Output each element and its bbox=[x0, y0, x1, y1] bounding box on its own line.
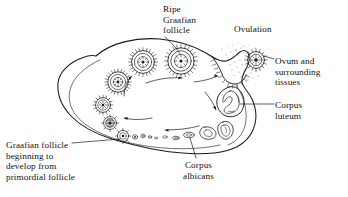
label-ovum-and-surrounding-tissues: Ovum and surrounding tissues bbox=[275, 56, 321, 88]
corpus-luteum bbox=[217, 87, 244, 117]
corpus-albicans-large bbox=[218, 121, 233, 139]
ripe-graafian-follicle bbox=[165, 45, 198, 78]
corpus-albicans-small bbox=[154, 132, 194, 140]
label-ovulation: Ovulation bbox=[234, 24, 272, 35]
early-follicle-dark bbox=[101, 114, 118, 131]
leader-ovum-surrounding bbox=[264, 56, 274, 59]
label-corpus-albicans: Corpus albicans bbox=[183, 160, 214, 181]
arrow-6 bbox=[124, 117, 152, 120]
ovary-cycle-figure: Ripe Graafian follicle Ovulation Ovum an… bbox=[0, 0, 348, 197]
arrow-4 bbox=[205, 92, 216, 110]
label-graafian-follicle-beginning: Graafian follicle beginning to develop f… bbox=[6, 140, 75, 182]
label-ripe-graafian-follicle: Ripe Graafian follicle bbox=[163, 4, 196, 36]
developing-follicle-stage-4 bbox=[129, 48, 158, 77]
primordial-follicle bbox=[115, 128, 130, 143]
leader-graafian-beginning bbox=[72, 139, 120, 143]
arrow-3 bbox=[194, 74, 218, 82]
tiny-primordial-follicles bbox=[132, 134, 151, 139]
arrow-2 bbox=[146, 76, 182, 83]
cycle-arrows bbox=[124, 74, 218, 132]
label-corpus-luteum: Corpus luteum bbox=[275, 100, 302, 121]
corpus-albicans-medium bbox=[200, 127, 216, 139]
arrow-5 bbox=[165, 126, 199, 132]
developing-follicle-stage-2 bbox=[93, 95, 113, 115]
released-ovum bbox=[245, 49, 267, 71]
leader-corpus-albicans bbox=[190, 138, 196, 158]
